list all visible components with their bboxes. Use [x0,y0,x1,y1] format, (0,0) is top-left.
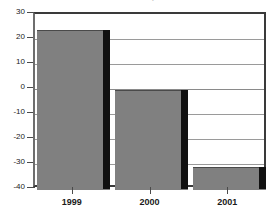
y-tick-label-wrap: -20 [0,133,25,142]
bar-face [37,30,110,190]
x-tick-1999 [72,187,73,194]
bar-face [193,167,266,191]
y-tick-label-wrap: 10 [0,58,25,67]
y-tick-label: 0 [1,83,25,91]
y-tick-label: -10 [1,108,25,116]
y-tick-label: 10 [1,58,25,66]
chart-title-cropped: ) [0,0,280,3]
y-tick-label: -40 [1,183,25,191]
bar-series [35,14,264,185]
y-tick-label-wrap: -10 [0,108,25,117]
y-tick-label-wrap: -30 [0,158,25,167]
bar-shadow-edge [103,30,110,189]
y-tick-label-wrap: 30 [0,8,25,17]
x-tick-2000 [150,187,151,194]
y-tick-label-wrap: 20 [0,33,25,42]
bar-face [115,90,188,190]
x-tick-2001 [227,187,228,194]
plot-area [33,12,266,187]
y-tick-label-wrap: 0 [0,83,25,92]
y-tick-label: 30 [1,8,25,16]
y-tick-label: -30 [1,158,25,166]
bar-shadow-edge [259,167,266,190]
bar-shadow-edge [181,90,188,189]
y-tick-label: 20 [1,33,25,41]
y-tick-label-wrap: -40 [0,183,25,192]
y-tick--40 [27,187,35,188]
bar-2000 [115,90,188,189]
bar-1999 [37,30,110,189]
x-tick-label-2000: 2000 [120,197,180,207]
bar-2001 [193,167,266,190]
y-tick-label: -20 [1,133,25,141]
chart-title-text: ) [152,0,156,1]
x-tick-label-1999: 1999 [42,197,102,207]
x-tick-label-2001: 2001 [197,197,257,207]
bar-chart: ) 3020100-10-20-30-40 199920002001 [0,0,280,218]
